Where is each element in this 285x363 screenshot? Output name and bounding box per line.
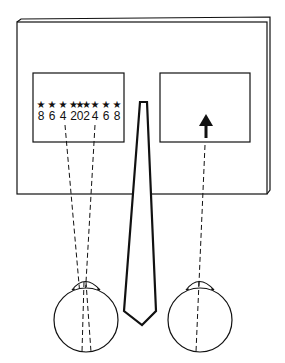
scale-label: 6 (103, 109, 110, 123)
scale-label: 4 (92, 109, 99, 123)
scale-label: 2 (83, 109, 90, 123)
scale-label: 8 (114, 109, 121, 123)
left-eye (54, 282, 118, 353)
star-scale: ★8★6★4★2★0★2★4★6★8 (37, 99, 122, 123)
scale-label: 4 (60, 109, 67, 123)
right-eye (168, 282, 232, 353)
stereoscope-diagram: ★8★6★4★2★0★2★4★6★8 (0, 0, 285, 363)
scale-label: 6 (49, 109, 56, 123)
scale-label: 8 (38, 109, 45, 123)
